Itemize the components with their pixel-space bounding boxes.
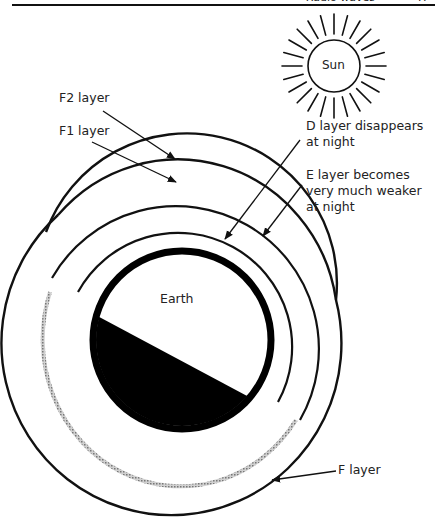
f-layer-label: F layer bbox=[338, 462, 381, 478]
sun-label: Sun bbox=[322, 58, 345, 72]
f2-layer-label: F2 layer bbox=[59, 90, 109, 106]
d-layer-label: D layer disappears at night bbox=[306, 118, 423, 150]
d-layer-label-line2: at night bbox=[306, 134, 423, 150]
f1-pointer bbox=[92, 142, 176, 182]
d-layer-label-line1: D layer disappears bbox=[306, 118, 423, 134]
earth-icon bbox=[60, 240, 290, 460]
e-pointer bbox=[263, 185, 302, 236]
e-layer-label: E layer becomes very much weaker at nigh… bbox=[306, 167, 422, 215]
earth-label: Earth bbox=[160, 291, 194, 306]
e-layer-label-line2: very much weaker bbox=[306, 183, 422, 199]
f1-layer-label: F1 layer bbox=[59, 123, 109, 139]
ionosphere-diagram bbox=[0, 0, 435, 525]
e-layer-label-line1: E layer becomes bbox=[306, 167, 422, 183]
e-layer-label-line3: at night bbox=[306, 199, 422, 215]
